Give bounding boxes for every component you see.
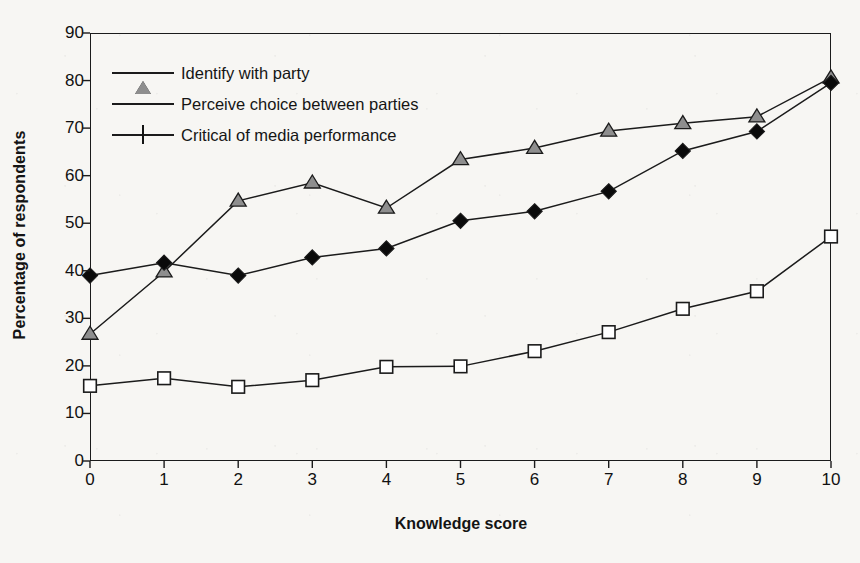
y-tick-label: 80: [40, 71, 84, 91]
chart-legend: Identify with partyPerceive choice betwe…: [112, 62, 419, 146]
x-tick-label: 10: [811, 470, 851, 490]
legend-line: [112, 103, 174, 105]
chart-page: Percentage of respondents 01020304050607…: [0, 0, 860, 563]
y-tick-label: 30: [40, 308, 84, 328]
x-tick-label: 3: [292, 470, 332, 490]
x-tick-label: 5: [441, 470, 481, 490]
legend-label: Perceive choice between parties: [181, 95, 419, 114]
x-axis-tick-labels: 012345678910: [0, 470, 860, 500]
x-tick-label: 2: [218, 470, 258, 490]
x-tick-label: 1: [144, 470, 184, 490]
legend-label: Critical of media performance: [181, 126, 397, 145]
y-tick-label: 90: [40, 23, 84, 43]
legend-label: Identify with party: [181, 64, 309, 83]
triangle-marker-icon: [135, 64, 151, 94]
x-tick-label: 8: [663, 470, 703, 490]
y-tick-label: 0: [40, 451, 84, 471]
legend-marker: [135, 64, 151, 82]
legend-swatch: [112, 95, 174, 113]
y-tick-label: 20: [40, 356, 84, 376]
x-tick-label: 0: [70, 470, 110, 490]
legend-item[interactable]: Perceive choice between parties: [112, 93, 419, 115]
y-tick-label: 60: [40, 166, 84, 186]
x-tick-label: 4: [366, 470, 406, 490]
legend-swatch: [112, 126, 174, 144]
legend-item[interactable]: Critical of media performance: [112, 124, 419, 146]
legend-item[interactable]: Identify with party: [112, 62, 419, 84]
y-tick-label: 10: [40, 403, 84, 423]
x-axis-title: Knowledge score: [90, 515, 832, 533]
y-tick-label: 50: [40, 213, 84, 233]
square-marker-icon: [142, 125, 144, 144]
legend-swatch: [112, 64, 174, 82]
legend-marker: [142, 126, 144, 144]
x-tick-label: 9: [737, 470, 777, 490]
x-tick-label: 7: [589, 470, 629, 490]
y-tick-label: 70: [40, 118, 84, 138]
y-tick-label: 40: [40, 261, 84, 281]
x-tick-label: 6: [515, 470, 555, 490]
